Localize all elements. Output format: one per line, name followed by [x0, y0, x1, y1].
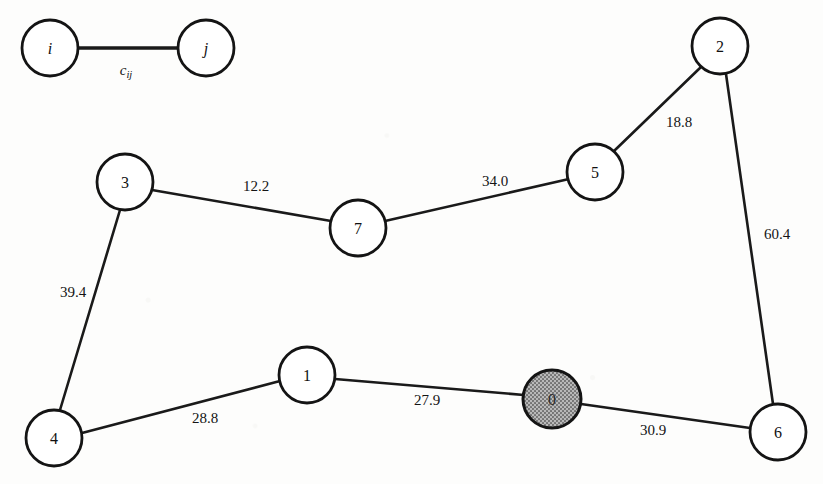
legend-node-j-label: j: [202, 40, 209, 58]
edge-4-1[interactable]: [82, 381, 280, 433]
edge-7-5[interactable]: [385, 179, 569, 221]
node-1[interactable]: 1: [279, 347, 335, 403]
node-2-label: 2: [716, 38, 724, 55]
node-0[interactable]: 0: [523, 370, 581, 428]
graph-figure: i j cij 3 7: [0, 0, 823, 484]
edge-weight-1-0: 27.9: [414, 392, 440, 408]
edge-weight-labels: 12.2 34.0 18.8 60.4 39.4 28.8 27.9 30.9: [60, 114, 791, 438]
legend-node-i-label: i: [48, 40, 52, 57]
edge-weight-0-6: 30.9: [640, 422, 666, 438]
node-5[interactable]: 5: [567, 144, 623, 200]
node-5-label: 5: [591, 164, 599, 181]
legend-cost-symbol: cij: [120, 62, 133, 80]
edge-weight-7-5: 34.0: [482, 173, 508, 189]
node-6-label: 6: [774, 424, 782, 441]
node-3[interactable]: 3: [97, 154, 153, 210]
edge-3-7[interactable]: [152, 190, 331, 221]
node-4[interactable]: 4: [26, 410, 82, 466]
graph-canvas: i j cij 3 7: [0, 0, 823, 484]
node-1-label: 1: [303, 367, 311, 384]
edge-3-4[interactable]: [60, 210, 120, 410]
node-7[interactable]: 7: [330, 200, 386, 256]
node-0-label: 0: [548, 391, 556, 408]
legend-group: i j cij: [22, 20, 234, 80]
edge-weight-3-4: 39.4: [60, 284, 87, 300]
node-7-label: 7: [354, 220, 362, 237]
node-2[interactable]: 2: [692, 18, 748, 74]
edge-weight-4-1: 28.8: [192, 410, 218, 426]
edge-weight-2-6: 60.4: [764, 226, 791, 242]
edge-weight-3-7: 12.2: [243, 178, 269, 194]
edge-5-2[interactable]: [614, 67, 701, 151]
edge-weight-5-2: 18.8: [666, 114, 692, 130]
node-6[interactable]: 6: [750, 404, 806, 460]
node-4-label: 4: [50, 430, 58, 447]
legend-cost-subscript: ij: [126, 69, 132, 80]
node-3-label: 3: [121, 174, 129, 191]
